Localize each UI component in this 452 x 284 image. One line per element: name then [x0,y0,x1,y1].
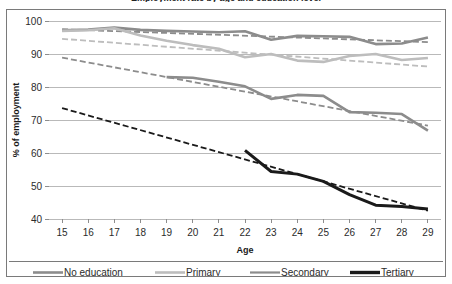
x-tick-label: 28 [396,227,408,238]
x-axis-title: Age [236,245,253,255]
x-tick-label: 24 [292,227,304,238]
x-tick-label: 17 [109,227,121,238]
x-tick-label: 15 [57,227,69,238]
chart-plot-frame: 405060708090100 151617181920212223242526… [6,9,446,277]
gridlines [49,21,441,219]
chart-canvas: 405060708090100 151617181920212223242526… [7,10,445,276]
y-axis-title: % of employment [11,83,21,158]
legend-label: Secondary [281,267,329,276]
x-tick-label: 25 [318,227,330,238]
legend-label: No education [64,267,123,276]
legend-item-no-education[interactable]: No education [33,267,123,276]
legend-item-tertiary[interactable]: Tertiary [350,267,414,276]
legend-item-secondary[interactable]: Secondary [250,267,329,276]
x-axis-tick-labels: 151617181920212223242526272829 [57,227,434,238]
series-line-tertiary[interactable] [245,150,428,209]
x-tick-label: 20 [187,227,199,238]
y-tick-label: 40 [31,214,43,225]
x-tick-label: 21 [213,227,225,238]
x-tick-label: 19 [161,227,173,238]
y-tick-label: 60 [31,148,43,159]
y-tick-label: 90 [31,49,43,60]
chart-legend: No educationPrimarySecondaryTertiary [33,267,414,276]
series-line-primary[interactable] [62,28,428,62]
y-axis-tick-marks [45,21,49,219]
x-tick-label: 23 [266,227,278,238]
x-tick-label: 29 [422,227,434,238]
y-tick-label: 50 [31,181,43,192]
x-tick-label: 16 [83,227,95,238]
legend-label: Tertiary [381,267,414,276]
x-tick-label: 22 [239,227,251,238]
legend-label: Primary [186,267,220,276]
trend-line-secondary [62,58,428,126]
y-tick-label: 80 [31,82,43,93]
x-tick-label: 27 [370,227,382,238]
y-tick-label: 100 [25,16,42,27]
x-tick-label: 18 [135,227,147,238]
chart-title: Employment rate by age and education lev… [0,0,452,2]
x-axis-tick-marks [62,219,428,223]
y-axis-tick-labels: 405060708090100 [25,16,42,225]
legend-item-primary[interactable]: Primary [155,267,220,276]
chart-figure: Employment rate by age and education lev… [0,0,452,284]
y-tick-label: 70 [31,115,43,126]
x-tick-label: 26 [344,227,356,238]
data-series-lines [62,28,428,210]
trend-line-tertiary [62,108,428,211]
